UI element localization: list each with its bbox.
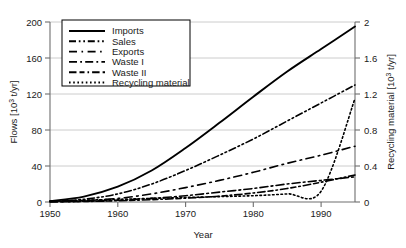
xtick-label-1970: 1970 <box>175 208 196 219</box>
xtick-label-1990: 1990 <box>311 208 332 219</box>
ytick-label-200: 200 <box>26 17 42 28</box>
y-axis-right-title: Recycling material [103 t/yr] <box>385 54 397 170</box>
legend-label-recycling-material: Recycling material <box>112 77 190 88</box>
chart-figure: 200 160 120 80 40 0 2 1.6 1.2 0.8 0.4 0 … <box>0 0 406 248</box>
xtick-label-1950: 1950 <box>39 208 60 219</box>
ytick-label-120: 120 <box>26 89 42 100</box>
ytick-right-label-1p2: 1.2 <box>364 89 377 100</box>
xtick-label-1980: 1980 <box>243 208 264 219</box>
y-axis-right-title-text: Recycling material [10 <box>385 76 396 169</box>
x-axis-title: Year <box>193 229 212 240</box>
y-axis-left-title-tail: t/yr] <box>8 81 19 99</box>
ytick-right-label-1p6: 1.6 <box>364 53 377 64</box>
ytick-label-160: 160 <box>26 53 42 64</box>
y-axis-left-title-text: Flows [10 <box>8 103 19 144</box>
ytick-label-0: 0 <box>37 197 42 208</box>
ytick-right-label-2: 2 <box>364 17 369 28</box>
ytick-label-80: 80 <box>31 125 42 136</box>
ytick-right-label-0p4: 0.4 <box>364 161 377 172</box>
svg-text:Flows [103 t/yr]: Flows [103 t/yr] <box>8 81 20 144</box>
ytick-label-40: 40 <box>31 161 42 172</box>
y-axis-left-title: Flows [103 t/yr] <box>8 81 20 144</box>
ytick-right-label-0: 0 <box>364 197 369 208</box>
ytick-right-label-0p8: 0.8 <box>364 125 377 136</box>
flows-line-chart: 200 160 120 80 40 0 2 1.6 1.2 0.8 0.4 0 … <box>0 0 406 248</box>
chart-background <box>0 0 406 248</box>
chart-legend: ImportsSalesExportsWaste IWaste IIRecycl… <box>62 20 190 88</box>
xtick-label-1960: 1960 <box>107 208 128 219</box>
y-axis-right-title-tail: t/yr] <box>385 54 396 72</box>
svg-text:Recycling material [103 t/yr]: Recycling material [103 t/yr] <box>385 54 397 170</box>
